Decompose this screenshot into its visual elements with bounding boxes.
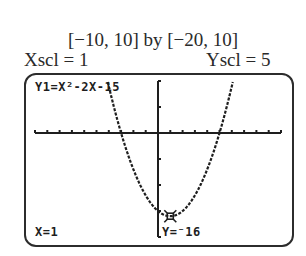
parabola-curve <box>108 82 233 216</box>
graph-plot <box>0 0 306 256</box>
trace-x-value: X=1 <box>35 225 58 239</box>
equation-label: Y1=X²-2X-15 <box>35 80 120 94</box>
trace-y-value: Y=⁻16 <box>162 225 201 239</box>
